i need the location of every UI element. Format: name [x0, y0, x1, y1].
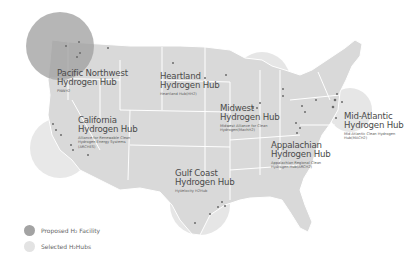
hub-title: Hydrogen Hub: [78, 125, 138, 134]
hub-title: Hydrogen Hub: [220, 113, 280, 122]
hub-title: Hydrogen Hub: [175, 178, 235, 187]
hub-subtitle: Mid-Atlantic Clean Hydrogen Hub(MACH2): [344, 132, 404, 141]
selected-hubs-swatch-icon: [24, 241, 35, 252]
hub-subtitle: PNWH2: [57, 89, 117, 93]
hub-label-appalachian: Appalachian Hydrogen Hub Appalachian Reg…: [271, 141, 331, 170]
hub-label-midwest: Midwest Hydrogen Hub Midwest Alliance fo…: [220, 104, 280, 133]
legend-selected-hubs: Selected H₂Hubs: [24, 241, 91, 252]
hub-title: Hydrogen Hub: [57, 78, 128, 87]
hub-label-gulfcoast: Gulf Coast Hydrogen Hub HyVelocity H2Hub: [175, 169, 235, 193]
hub-title: Hydrogen Hub: [160, 81, 220, 90]
proposed-facility-swatch-icon: [24, 225, 35, 236]
hub-label-california: California Hydrogen Hub Alliance for Ren…: [78, 116, 138, 149]
hub-subtitle: Midwest Alliance for Clean Hydrogen(Mach…: [220, 124, 280, 133]
hub-subtitle: Appalachian Regional Clean Hydrogen Hub(…: [271, 161, 331, 170]
hub-subtitle: Alliance for Renewable Clean Hydrogen En…: [78, 136, 138, 149]
hub-title: Hydrogen Hub: [344, 121, 404, 130]
legend-proposed-facility: Proposed H₂ Facility: [24, 225, 100, 236]
hub-subtitle: HyVelocity H2Hub: [175, 189, 235, 193]
legend-label: Proposed H₂ Facility: [41, 227, 100, 234]
legend-label: Selected H₂Hubs: [41, 243, 91, 250]
hub-label-heartland: Heartland Hydrogen Hub Heartland Hub(HH2…: [160, 72, 220, 96]
hub-label-midatlantic: Mid-Atlantic Hydrogen Hub Mid-Atlantic C…: [344, 112, 404, 141]
hub-title: Hydrogen Hub: [271, 150, 331, 159]
hub-label-pnw: Pacific Northwest Hydrogen Hub PNWH2: [57, 69, 128, 93]
hub-subtitle: Heartland Hub(HH2): [160, 92, 220, 96]
